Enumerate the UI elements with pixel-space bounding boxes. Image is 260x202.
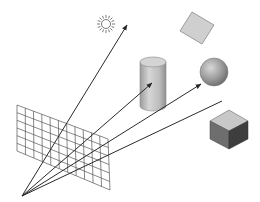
- sphere: [200, 58, 228, 86]
- ray-past-sphere: [22, 101, 222, 196]
- tilted-square: [180, 12, 214, 44]
- image-plane-grid: [17, 105, 110, 190]
- ray-to-sphere: [22, 84, 201, 196]
- ray-tracing-diagram: [0, 0, 260, 202]
- ray-to-light: [22, 25, 127, 196]
- diagram-canvas: [0, 0, 260, 202]
- sun-light-icon: [97, 15, 115, 33]
- rays: [22, 25, 222, 196]
- ray-to-cylinder: [22, 83, 152, 196]
- cylinder: [140, 57, 166, 111]
- cube: [210, 110, 248, 149]
